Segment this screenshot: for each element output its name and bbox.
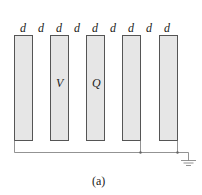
plate-4: [123, 36, 141, 141]
spacing-label: d: [20, 21, 27, 35]
junction-dot: [176, 151, 178, 153]
ground-icon: [181, 161, 196, 166]
parallel-plates-diagram: d d d d d d d d d V Q (a): [0, 0, 202, 195]
wiring: [15, 141, 189, 161]
spacing-label: d: [110, 21, 117, 35]
plate-1: [15, 36, 33, 141]
plate-5: [160, 36, 178, 141]
junction-dot: [139, 151, 141, 153]
spacing-label: d: [146, 21, 153, 35]
spacing-label: d: [92, 21, 99, 35]
spacing-label: d: [128, 21, 135, 35]
spacing-label: d: [56, 21, 63, 35]
spacing-label: d: [74, 21, 81, 35]
spacing-label: d: [38, 21, 45, 35]
spacing-label: d: [164, 21, 171, 35]
charge-label: Q: [92, 76, 101, 90]
figure-caption: (a): [92, 174, 105, 188]
